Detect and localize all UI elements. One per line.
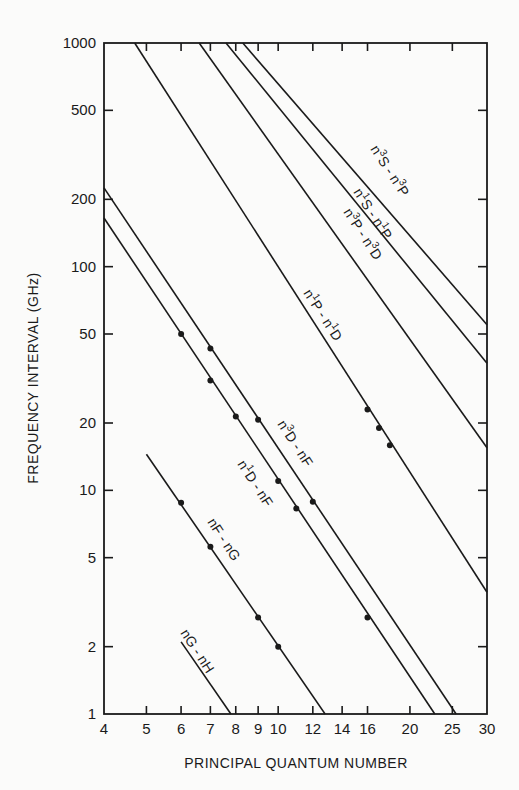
label-n3D-nF: n3D - nF: [274, 416, 318, 470]
y-tick-label: 1: [88, 705, 96, 722]
label-n1P-n1D: n1P - n1D: [300, 285, 347, 344]
y-tick-label: 500: [71, 101, 96, 118]
series-line-n3P-n3D: [199, 43, 487, 448]
data-point: [207, 544, 213, 550]
data-point: [275, 644, 281, 650]
y-tick-label: 2: [88, 638, 96, 655]
y-tick-label: 200: [71, 190, 96, 207]
label-nF-nG: nF - nG: [204, 515, 243, 564]
plot-lines: [104, 43, 487, 714]
x-tick-label: 9: [254, 720, 262, 737]
y-tick-label: 10: [79, 481, 96, 498]
data-point: [310, 499, 316, 505]
data-point: [207, 346, 213, 352]
series-line-n1S-n1P: [226, 43, 487, 363]
y-tick-label: 20: [79, 414, 96, 431]
y-tick-label: 1000: [63, 34, 96, 51]
x-tick-label: 7: [206, 720, 214, 737]
axis-ticks: [104, 43, 487, 714]
x-tick-label: 16: [359, 720, 376, 737]
axes-frame: [104, 43, 487, 714]
x-tick-label: 14: [334, 720, 351, 737]
y-tick-label: 5: [88, 549, 96, 566]
x-tick-label: 5: [142, 720, 150, 737]
data-point: [233, 413, 239, 419]
y-tick-label: 50: [79, 325, 96, 342]
x-axis-title: PRINCIPAL QUANTUM NUMBER: [184, 755, 408, 771]
y-axis-title: FREQUENCY INTERVAL (GHz): [25, 272, 41, 483]
label-n1D-nF: n1D - nF: [234, 456, 278, 510]
x-tick-label: 4: [100, 720, 108, 737]
x-tick-label: 12: [304, 720, 321, 737]
x-tick-labels: 45678910121416202530: [100, 720, 496, 737]
label-nG-nH: nG - nH: [177, 626, 217, 676]
plot-frame: [104, 43, 487, 714]
series-line-n3D-nF: [104, 188, 456, 714]
x-tick-label: 6: [177, 720, 185, 737]
series-line-nF-nG: [146, 454, 325, 714]
frequency-vs-quantum-number-chart: 45678910121416202530 1251020501002005001…: [0, 0, 519, 790]
y-tick-label: 100: [71, 258, 96, 275]
data-point: [255, 615, 261, 621]
data-point: [178, 500, 184, 506]
data-point: [387, 442, 393, 448]
y-tick-labels: 1251020501002005001000: [63, 34, 96, 722]
label-n3S-n3P: n3S - n3P: [367, 141, 414, 199]
data-point: [255, 417, 261, 423]
x-tick-label: 20: [402, 720, 419, 737]
x-tick-label: 10: [270, 720, 287, 737]
x-tick-label: 8: [232, 720, 240, 737]
data-point: [178, 331, 184, 337]
data-point: [207, 377, 213, 383]
data-point: [365, 406, 371, 412]
series-line-n3S-n3P: [243, 43, 487, 325]
x-tick-label: 25: [444, 720, 461, 737]
data-point: [376, 425, 382, 431]
data-point: [293, 505, 299, 511]
series-line-n1P-n1D: [135, 43, 487, 592]
x-tick-label: 30: [479, 720, 496, 737]
data-point: [275, 478, 281, 484]
data-point: [365, 615, 371, 621]
